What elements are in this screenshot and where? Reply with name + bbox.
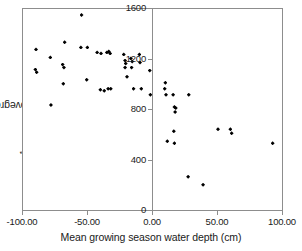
y-axis-tick-label: 0 <box>112 204 146 215</box>
x-axis-tick <box>22 211 23 215</box>
data-point <box>34 47 38 51</box>
data-point <box>80 13 84 17</box>
data-point <box>63 40 67 44</box>
y-axis-tick-label: 400 <box>112 154 146 165</box>
data-point <box>228 127 232 131</box>
data-point <box>165 139 169 143</box>
data-point <box>123 66 127 70</box>
data-point <box>173 110 177 114</box>
data-point <box>48 55 52 59</box>
data-point <box>164 93 168 97</box>
data-point <box>172 141 176 145</box>
x-axis-tick-label: -50.00 <box>64 216 110 227</box>
data-point <box>187 93 191 97</box>
x-axis-label: Mean growing season water depth (cm) <box>0 231 302 243</box>
data-point <box>99 51 103 55</box>
data-point <box>139 87 143 91</box>
data-point <box>125 75 129 79</box>
x-axis-tick-label: 50.00 <box>194 216 240 227</box>
x-axis-tick-label: 0.00 <box>129 216 175 227</box>
y-axis-tick <box>148 109 152 110</box>
data-point <box>85 78 89 82</box>
data-point <box>186 175 190 179</box>
data-point <box>49 103 53 107</box>
data-point <box>163 87 167 91</box>
x-axis-tick <box>87 211 88 215</box>
data-point <box>79 45 83 49</box>
data-point <box>61 82 65 86</box>
scatter-plot-figure: Aboveground NPP (g m−2 yr−1) -100.00-50.… <box>0 0 302 251</box>
data-point <box>201 183 205 187</box>
data-point <box>109 87 113 91</box>
data-point <box>271 141 275 145</box>
y-axis-tick-label: 800 <box>112 103 146 114</box>
data-point <box>102 89 106 93</box>
x-axis-tick-label: 100.00 <box>259 216 302 227</box>
data-point <box>95 50 99 54</box>
x-axis-tick <box>282 211 283 215</box>
data-point <box>130 66 134 70</box>
data-point <box>98 88 102 92</box>
data-point <box>163 81 167 85</box>
data-point <box>85 45 89 49</box>
data-point <box>230 131 234 135</box>
x-axis-tick <box>217 211 218 215</box>
data-point <box>132 87 136 91</box>
data-point <box>216 127 220 131</box>
y-axis-label-exponent-1: −2 <box>0 150 1 160</box>
y-axis-tick <box>148 59 152 60</box>
data-point <box>171 93 175 97</box>
y-axis-tick-label: 1600 <box>112 2 146 13</box>
y-axis-tick <box>148 8 152 9</box>
y-axis-tick <box>148 160 152 161</box>
x-axis-tick <box>152 211 153 215</box>
y-axis-tick-label: 1200 <box>112 53 146 64</box>
x-axis-tick-label: -100.00 <box>0 216 45 227</box>
y-axis-label: Aboveground NPP (g m−2 yr−1) <box>0 0 22 211</box>
data-point <box>172 129 176 133</box>
y-axis-line <box>152 8 153 211</box>
